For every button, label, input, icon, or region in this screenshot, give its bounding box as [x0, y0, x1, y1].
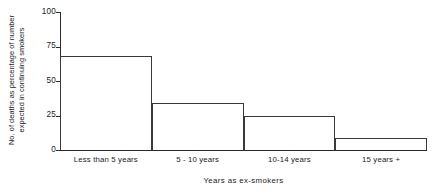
x-axis-category-label: 15 years +	[335, 155, 427, 165]
y-axis-tick-label: 25	[34, 111, 56, 119]
y-axis-tick-labels: 0255075100	[34, 0, 56, 194]
x-axis-category-label: Less than 5 years	[60, 155, 152, 165]
x-axis-line	[60, 150, 427, 151]
y-axis-title-line-1: No. of deaths as percentage of number	[7, 15, 17, 145]
bar-chart-figure: No. of deaths as percentage of number ex…	[0, 0, 438, 194]
y-axis-title-container: No. of deaths as percentage of number ex…	[0, 0, 34, 160]
bar	[244, 116, 336, 151]
y-axis-title: No. of deaths as percentage of number ex…	[7, 15, 26, 145]
y-axis-tick-label: 50	[34, 77, 56, 85]
bar	[60, 56, 152, 150]
y-axis-title-line-2: expected in continuing smokers	[17, 15, 27, 145]
x-axis-title: Years as ex-smokers	[60, 176, 427, 186]
plot-area	[60, 12, 427, 150]
y-axis-tick-label: 100	[34, 8, 56, 16]
x-axis-category-label: 10-14 years	[244, 155, 336, 165]
x-axis-category-label: 5 - 10 years	[152, 155, 244, 165]
y-axis-tick-mark	[56, 12, 60, 13]
y-axis-tick-mark	[56, 47, 60, 48]
y-axis-tick-label: 75	[34, 42, 56, 50]
x-axis-category-labels: Less than 5 years5 - 10 years10-14 years…	[60, 155, 427, 169]
y-axis-tick-mark	[56, 150, 60, 151]
bar	[152, 103, 244, 150]
bar	[335, 138, 427, 150]
y-axis-tick-label: 0	[34, 146, 56, 154]
